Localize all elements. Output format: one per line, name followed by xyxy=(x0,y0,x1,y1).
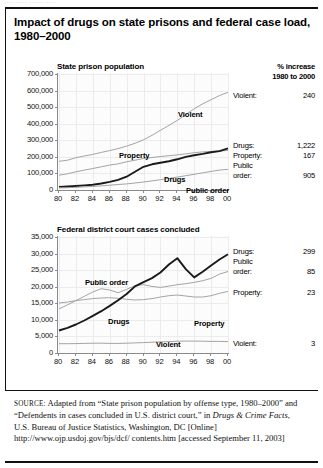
legend-panel-federal-cases: Drugs: 299 Public order: 85 Property: 23… xyxy=(233,247,318,357)
chart2-ytick-label: 25,000 xyxy=(3,265,53,274)
chart2-ytick xyxy=(55,254,57,255)
chart1-title: State prison population xyxy=(57,62,144,71)
chart2-xtick xyxy=(126,354,127,356)
source-label: SOURCE: xyxy=(14,400,46,408)
chart2-xtick xyxy=(227,354,228,356)
chart1-xtick xyxy=(176,191,177,193)
chart2-ytick-label: 10,000 xyxy=(3,315,53,324)
chart1-ytick xyxy=(55,173,57,174)
panel1-row-drugs-name: Drugs: xyxy=(233,141,254,151)
chart2-series-label-public-order: Public order xyxy=(85,278,128,287)
chart2-title: Federal district court cases concluded xyxy=(57,225,199,234)
chart2-ytick-label: 30,000 xyxy=(3,249,53,258)
chart2-xtick xyxy=(75,354,76,356)
chart1-ytick-label: 500,000 xyxy=(3,102,53,111)
chart2-ytick xyxy=(55,237,57,238)
chart2-xtick-label: 00 xyxy=(217,357,237,366)
chart1-ytick xyxy=(55,140,57,141)
chart2-xtick xyxy=(193,354,194,356)
chart1-xtick xyxy=(75,191,76,193)
chart1-xtick xyxy=(143,191,144,193)
panel2-row-property-value: 23 xyxy=(307,288,315,298)
chart2-ytick-label: 0 xyxy=(3,348,53,357)
chart2-series-label-property: Property xyxy=(194,319,224,328)
panel1-header-line2: 1980 to 2000 xyxy=(233,72,315,82)
figure-title: Impact of drugs on state prisons and fed… xyxy=(14,16,314,43)
cropped-header-text: •••• ••••• •••••• •••• xyxy=(4,0,124,5)
chart1-ytick-label: 200,000 xyxy=(3,152,53,161)
chart1-xtick xyxy=(109,191,110,193)
chart2-ytick xyxy=(55,287,57,288)
series-violent xyxy=(59,341,228,344)
panel1-row-public-order-name2: order: xyxy=(233,171,252,181)
chart2-plot-area xyxy=(57,236,229,354)
chart1-xtick xyxy=(58,191,59,193)
legend-panel-state-prison: % increase 1980 to 2000 Violent: 240 Dru… xyxy=(233,62,318,192)
chart2-series-label-drugs: Drugs xyxy=(108,317,129,326)
chart1-lines xyxy=(58,73,229,190)
chart2-ytick xyxy=(55,353,57,354)
figure-page: •••• ••••• •••••• •••• Impact of drugs o… xyxy=(0,0,323,468)
chart1-ytick xyxy=(55,124,57,125)
chart1-ytick-label: 300,000 xyxy=(3,135,53,144)
panel1-row-property-value: 167 xyxy=(303,151,315,161)
panel2-row-public-order-name: Public xyxy=(233,257,252,267)
chart2-xtick xyxy=(176,354,177,356)
panel1-header-line1: % increase xyxy=(233,62,315,72)
chart2-ytick xyxy=(55,270,57,271)
chart1-xtick-label: 00 xyxy=(217,194,237,203)
chart1-ytick xyxy=(55,107,57,108)
panel1-row-violent-value: 240 xyxy=(303,91,315,101)
panel2-row-drugs-name: Drugs: xyxy=(233,247,254,257)
source-note: SOURCE: Adapted from “State prison popul… xyxy=(14,398,306,444)
source-italic-title: Drugs & Crime Facts xyxy=(213,410,288,420)
chart1-ytick xyxy=(55,91,57,92)
chart2-ytick-label: 20,000 xyxy=(3,282,53,291)
chart2-ytick-label: 15,000 xyxy=(3,298,53,307)
chart1-xtick xyxy=(126,191,127,193)
chart1-ytick xyxy=(55,157,57,158)
panel1-row-property-name: Property: xyxy=(233,151,262,161)
chart2-ytick xyxy=(55,320,57,321)
chart2-ytick xyxy=(55,336,57,337)
chart1-plot-area xyxy=(57,73,229,191)
chart2-ytick-label: 35,000 xyxy=(3,232,53,241)
chart1-ytick-label: 0 xyxy=(3,185,53,194)
chart1-ytick xyxy=(55,74,57,75)
chart2-xtick xyxy=(109,354,110,356)
chart1-ytick-label: 700,000 xyxy=(3,69,53,78)
chart2-lines xyxy=(58,236,229,353)
series-property xyxy=(59,291,228,303)
chart1-series-label-property: Property xyxy=(119,151,149,160)
chart2-xtick xyxy=(210,354,211,356)
panel2-row-public-order-name2: order: xyxy=(233,267,252,277)
chart1-ytick-label: 600,000 xyxy=(3,86,53,95)
chart2-xtick xyxy=(58,354,59,356)
chart1-ytick xyxy=(55,190,57,191)
chart1-ytick-label: 100,000 xyxy=(3,168,53,177)
chart2-hgrid xyxy=(58,353,229,354)
chart2-xtick xyxy=(92,354,93,356)
chart2-xtick xyxy=(143,354,144,356)
chart2-xtick xyxy=(159,354,160,356)
bottom-divider xyxy=(5,461,318,463)
panel2-row-public-order-value: 85 xyxy=(307,267,315,277)
chart2-ytick xyxy=(55,303,57,304)
top-divider xyxy=(5,7,318,9)
chart2-ytick-label: 5,000 xyxy=(3,331,53,340)
panel1-row-public-order-name: Public xyxy=(233,161,252,171)
panel2-row-violent-name: Violent: xyxy=(233,339,257,349)
chart1-series-label-public-order: Public order xyxy=(186,186,229,195)
chart1-series-label-violent: Violent xyxy=(178,110,202,119)
panel2-row-property-name: Property: xyxy=(233,288,262,298)
chart2-series-label-violent: Violent xyxy=(156,340,180,349)
chart1-ytick-label: 400,000 xyxy=(3,119,53,128)
panel2-row-violent-value: 3 xyxy=(311,339,315,349)
panel2-row-drugs-value: 299 xyxy=(303,247,315,257)
panel1-row-drugs-value: 1,222 xyxy=(297,141,315,151)
panel1-row-violent-name: Violent: xyxy=(233,91,257,101)
chart1-series-label-drugs: Drugs xyxy=(164,175,185,184)
chart1-xtick xyxy=(159,191,160,193)
source-divider xyxy=(5,390,318,391)
panel1-row-public-order-value: 905 xyxy=(303,171,315,181)
